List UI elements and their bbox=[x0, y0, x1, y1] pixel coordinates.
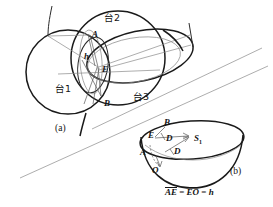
bowl-rim bbox=[139, 117, 245, 162]
panel-caption-b: (b) bbox=[230, 167, 241, 177]
region-label-tai3: 台3 bbox=[133, 92, 149, 102]
geometry-figure: 台2 台1 台3 A h E B (a) B E D S1 A D O (b) … bbox=[0, 0, 273, 207]
point-label-a: A bbox=[92, 30, 98, 39]
point-label-s1: S1 bbox=[194, 134, 202, 145]
bowl-body bbox=[141, 135, 243, 188]
point-label-o-bottom: O bbox=[152, 166, 159, 175]
line-e-down-right bbox=[93, 68, 99, 104]
equation-ae-eo-h: AE = EO = h bbox=[165, 187, 214, 197]
point-label-d-lower: D bbox=[174, 147, 181, 156]
point-label-h: h bbox=[84, 52, 89, 61]
line-topleft-to-a bbox=[48, 35, 90, 36]
ellipse-tai2-inner bbox=[84, 30, 184, 90]
panel-caption-a: (a) bbox=[55, 124, 66, 134]
point-label-s1-subscript: 1 bbox=[199, 139, 202, 145]
equation-relation-1: = bbox=[179, 187, 184, 197]
point-label-e: E bbox=[102, 65, 108, 74]
point-label-b: B bbox=[104, 99, 110, 108]
equation-term-h: h bbox=[209, 187, 214, 197]
region-label-tai2: 台2 bbox=[104, 13, 120, 23]
tick-d-upper bbox=[161, 133, 165, 140]
point-label-a-left: A bbox=[140, 148, 146, 157]
point-label-d-upper: D bbox=[166, 134, 173, 143]
chord-e-to-tai2-right2 bbox=[99, 45, 191, 70]
point-label-e-rim: E bbox=[148, 131, 154, 140]
region-label-tai1: 台1 bbox=[55, 84, 71, 94]
line-topleft-to-e bbox=[48, 36, 98, 67]
arc-lower-left bbox=[80, 113, 86, 136]
circle-tai1 bbox=[26, 30, 110, 114]
equation-relation-2: = bbox=[201, 187, 206, 197]
equation-term-ae: AE bbox=[165, 187, 177, 197]
point-label-b-top: B bbox=[164, 118, 170, 127]
equation-term-eo: EO bbox=[187, 187, 200, 197]
arc-upper-left bbox=[48, 6, 52, 36]
